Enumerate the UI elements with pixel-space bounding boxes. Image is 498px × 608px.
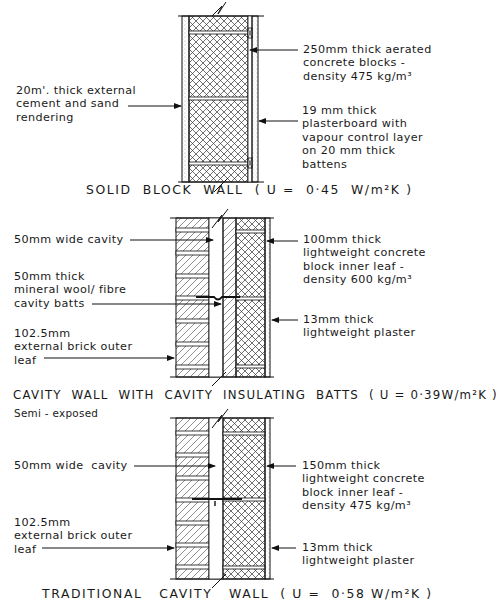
cavity-width-label: 50mm wide cavity — [14, 233, 124, 246]
brick-outer-leaf-label: 102.5mm external brick outer leaf — [14, 327, 132, 367]
plasterboard-label: 19 mm thick plasterboard with vapour con… — [302, 104, 423, 171]
brick-outer-leaf-label: 102.5mm external brick outer leaf — [14, 516, 132, 556]
aerated-blocks-label: 250mm thick aerated concrete blocks - de… — [303, 43, 432, 83]
solid-block-wall-section — [128, 2, 298, 192]
semi-exposed-note: Semi - exposed — [14, 407, 98, 419]
plaster-label: 13mm thick lightweight plaster — [303, 313, 415, 340]
cavity-batts-label: 50mm thick mineral wool/ fibre cavity ba… — [14, 270, 126, 310]
cavity-batts-wall-caption: CAVITY WALL WITH CAVITY INSULATING BATTS… — [13, 388, 498, 402]
inner-leaf-block-label: 100mm thick lightweight concrete block i… — [303, 233, 426, 287]
plaster-label: 13mm thick lightweight plaster — [302, 541, 414, 568]
render-label: 20m'. thick external cement and sand ren… — [16, 84, 136, 124]
inner-leaf-block-label: 150mm thick lightweight concrete block i… — [302, 459, 425, 513]
cavity-width-label: 50mm wide cavity — [14, 459, 128, 472]
traditional-cavity-wall-section — [42, 409, 296, 588]
traditional-cavity-wall-caption: TRADITIONAL CAVITY WALL ( U = 0·58 W/m²K… — [42, 586, 433, 601]
solid-block-wall-caption: SOLID BLOCK WALL ( U = 0·45 W/m²K ) — [86, 182, 413, 197]
